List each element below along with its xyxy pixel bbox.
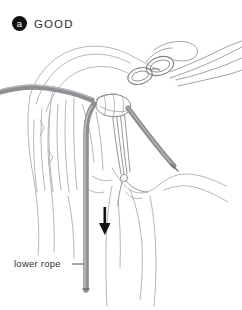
rock-striation-5	[74, 98, 77, 190]
anchor-cord-strand-4	[124, 109, 130, 172]
badge-label: GOOD	[34, 18, 74, 30]
anchor-knot-group	[96, 94, 131, 117]
badge-letter-circle: a	[12, 16, 27, 31]
rock-right-inner-3	[118, 200, 120, 268]
knot-body	[96, 94, 131, 116]
illustration-page: a GOOD lower rope	[0, 0, 242, 310]
figure-badge: a GOOD	[12, 16, 74, 31]
rock-right-outline-3	[160, 174, 226, 186]
rock-right-outline-4	[164, 186, 228, 202]
upper-rope-strand-4	[178, 70, 242, 86]
rock-right-outline-2	[130, 190, 142, 300]
rock-detail-3	[68, 196, 74, 258]
rappel-rings-group	[126, 53, 176, 87]
rock-right-inner-2	[106, 186, 112, 306]
upper-rope-bight	[146, 48, 172, 62]
ring-link-highlight	[150, 69, 160, 71]
rock-striation-4	[65, 100, 69, 192]
upper-rope-loop-left	[154, 41, 198, 60]
upper-rope-strands	[146, 41, 242, 86]
anchor-cord-node	[120, 174, 127, 181]
rock-striation-1	[41, 108, 45, 190]
upper-rope-strand-3	[176, 58, 242, 80]
rock-striation-3	[57, 104, 61, 190]
rock-right-inner-1	[150, 196, 156, 306]
rock-left-edge	[48, 86, 54, 252]
down-arrow-head	[99, 223, 111, 235]
down-arrow-shaft	[104, 207, 107, 225]
upper-rope-strand-1	[170, 41, 242, 72]
rock-striation-2	[49, 110, 53, 192]
down-arrow-icon	[99, 207, 111, 235]
anchor-cord-tail-1	[126, 181, 148, 192]
anchor-cord-strand-3	[120, 110, 127, 174]
rock-shoulder-2	[96, 112, 103, 170]
rope-upper-run	[0, 87, 92, 100]
rock-detail-1	[92, 176, 112, 181]
anchor-cord-tail-2	[118, 182, 122, 206]
callout-label-lower-rope: lower rope	[14, 258, 61, 269]
rope-tail-highlight	[127, 106, 172, 164]
rock-left-outline	[28, 96, 39, 255]
rappel-ring-upper	[144, 53, 176, 79]
